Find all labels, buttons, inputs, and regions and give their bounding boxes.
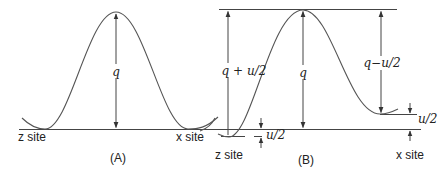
barrier-label-b: q — [299, 66, 307, 80]
x-site-label-b: x site — [396, 148, 424, 162]
right-barrier-label: q−u/2 — [363, 56, 400, 70]
panel-a: q z site x site (A) — [18, 12, 222, 165]
barrier-label-a: q — [112, 65, 120, 79]
panel-b-label: (B) — [298, 153, 314, 167]
z-site-label-a: z site — [18, 130, 46, 144]
panel-a-label: (A) — [110, 151, 126, 165]
energy-barrier-diagram: q z site x site (A) q + u/2 q q−u/2 u/2 … — [0, 0, 445, 176]
left-barrier-label: q + u/2 — [222, 64, 267, 78]
panel-b: q + u/2 q q−u/2 u/2 u/2 z site x site (B… — [200, 10, 437, 168]
upper-offset-label: u/2 — [418, 112, 437, 126]
z-site-label-b: z site — [215, 148, 243, 162]
lower-offset-label: u/2 — [266, 128, 285, 142]
x-site-label-a: x site — [176, 130, 204, 144]
